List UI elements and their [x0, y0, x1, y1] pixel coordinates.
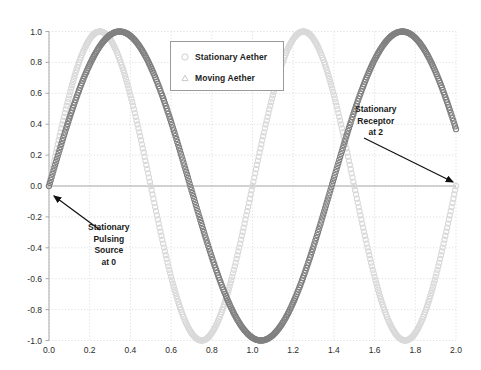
- annotation-line: Source: [88, 245, 130, 257]
- annotation-line: Receptor: [355, 116, 397, 128]
- x-tick-label: 1.2: [287, 345, 299, 355]
- y-tick-label: 1.0: [4, 27, 42, 37]
- annotation-line: Stationary: [355, 104, 397, 116]
- x-tick-label: 0.8: [206, 345, 218, 355]
- y-tick-label: -1.0: [4, 336, 42, 346]
- y-tick-label: 0.8: [4, 57, 42, 67]
- annotation-line: at 2: [355, 127, 397, 139]
- annotation-line: Pulsing: [88, 234, 130, 246]
- y-tick-label: -0.4: [4, 243, 42, 253]
- legend-marker-circle-icon: [175, 53, 195, 61]
- legend-item-stationary-aether: Stationary Aether: [171, 46, 283, 68]
- x-tick-label: 0.6: [165, 345, 177, 355]
- y-tick-label: 0.4: [4, 119, 42, 129]
- chart-legend: Stationary Aether Moving Aether: [170, 41, 284, 91]
- annotation-line: Stationary: [88, 222, 130, 234]
- y-tick-label: 0.6: [4, 88, 42, 98]
- y-tick-label: -0.6: [4, 274, 42, 284]
- legend-marker-triangle-icon: [175, 74, 195, 82]
- legend-label-moving-aether: Moving Aether: [195, 73, 255, 83]
- x-tick-label: 0.2: [84, 345, 96, 355]
- x-tick-label: 1.4: [328, 345, 340, 355]
- legend-item-moving-aether: Moving Aether: [171, 67, 283, 89]
- y-tick-label: 0.2: [4, 150, 42, 160]
- annotation-pulsing-source: StationaryPulsingSourceat 0: [88, 222, 130, 268]
- y-tick-label: -0.8: [4, 305, 42, 315]
- y-tick-label: 0.0: [4, 181, 42, 191]
- x-tick-label: 2.0: [450, 345, 462, 355]
- x-tick-label: 1.0: [247, 345, 259, 355]
- x-tick-label: 0.0: [43, 345, 55, 355]
- legend-label-stationary-aether: Stationary Aether: [195, 52, 267, 62]
- x-tick-label: 1.6: [369, 345, 381, 355]
- y-tick-label: -0.2: [4, 212, 42, 222]
- annotation-line: at 0: [88, 257, 130, 269]
- annotation-stationary-receptor: StationaryReceptorat 2: [355, 104, 397, 139]
- chart-figure: 1.00.80.60.40.20.0-0.2-0.4-0.6-0.8-1.0 0…: [0, 0, 481, 370]
- x-tick-label: 0.4: [124, 345, 136, 355]
- x-tick-label: 1.8: [409, 345, 421, 355]
